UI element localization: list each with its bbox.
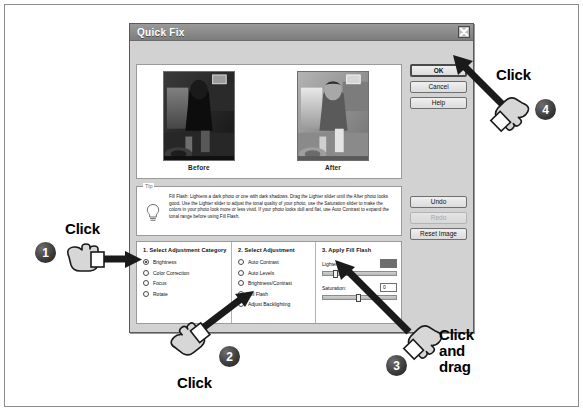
radio-label: Fill Flash [248,291,268,297]
annotation-label-4: Click [496,67,531,83]
radio-icon [238,301,244,307]
pointing-hand-icon [488,93,532,137]
lighter-slider-track[interactable] [322,271,397,276]
radio-label: Color Correction [153,270,189,276]
saturation-label: Saturation: [322,283,346,291]
section-apply-fill-flash: 3. Apply Fill Flash Lighter: Saturation: [316,242,401,323]
after-thumb-group: After [297,71,369,171]
radio-label: Auto Contrast [248,259,279,265]
saturation-slider-thumb[interactable] [356,294,361,302]
radio-rotate[interactable]: Rotate [143,291,227,297]
radio-icon [143,291,149,297]
lighter-value-input[interactable] [380,259,397,268]
close-icon[interactable] [457,26,470,39]
radio-icon [238,280,244,286]
after-label: After [297,164,369,171]
before-thumb-group: Before [163,71,235,171]
radio-icon [238,270,244,276]
annotation-badge-3: 3 [386,355,407,376]
lighter-slider-thumb[interactable] [333,270,338,278]
pointing-hand-icon [63,241,107,279]
tip-text: Fill Flash: Lightens a dark photo or one… [169,194,395,220]
annotation-label-3-line2: and [439,343,474,359]
radio-label: Auto Levels [248,270,274,276]
undo-button[interactable]: Undo [410,196,467,208]
section-select-category: 1. Select Adjustment Category Brightness… [137,242,232,323]
radio-icon [143,259,149,265]
before-image [163,71,235,161]
saturation-slider-track[interactable] [322,295,397,300]
dialog-body: Before [130,41,473,332]
radio-fill-flash[interactable]: Fill Flash [238,291,311,297]
radio-label: Brightness [153,259,177,265]
section3-title: 3. Apply Fill Flash [322,247,397,253]
annotation-label-2: Click [177,375,212,391]
annotation-badge-2: 2 [219,346,240,367]
radio-label: Brightness/Contrast [248,280,292,286]
radio-label: Focus [153,280,167,286]
radio-brightness[interactable]: Brightness [143,259,227,265]
saturation-value-input[interactable]: 0 [380,283,397,292]
redo-button: Redo [410,212,467,224]
tip-legend: Tip [143,183,154,189]
radio-icon [238,291,244,297]
quick-fix-dialog: Quick Fix [129,23,474,333]
before-label: Before [163,164,235,171]
section1-title: 1. Select Adjustment Category [143,247,227,253]
help-button[interactable]: Help [410,97,467,109]
radio-icon [238,259,244,265]
cancel-button[interactable]: Cancel [410,81,467,93]
radio-icon [143,270,149,276]
radio-label: Rotate [153,291,168,297]
saturation-slider-group: Saturation: 0 [322,283,397,300]
after-image [297,71,369,161]
lightbulb-icon [146,203,160,227]
radio-color-correction[interactable]: Color Correction [143,270,227,276]
lighter-label: Lighter: [322,259,339,267]
annotation-badge-1: 1 [35,242,56,263]
section2-title: 2. Select Adjustment [238,247,311,253]
page-frame: Quick Fix [4,4,579,407]
ok-button[interactable]: OK [410,64,467,77]
radio-focus[interactable]: Focus [143,280,227,286]
radio-icon [143,280,149,286]
radio-adjust-backlighting[interactable]: Adjust Backlighting [238,301,311,307]
lighter-slider-group: Lighter: [322,259,397,276]
dialog-action-buttons: OK Cancel Help [410,64,467,113]
radio-brightness-contrast[interactable]: Brightness/Contrast [238,280,311,286]
reset-image-button[interactable]: Reset Image [410,228,467,240]
radio-auto-levels[interactable]: Auto Levels [238,270,311,276]
tip-box: Tip Fill Flash: Lightens a dark photo or… [136,186,402,236]
annotation-label-1: Click [65,221,100,237]
annotation-badge-4: 4 [535,99,556,120]
annotation-label-3-line1: Click [439,327,474,343]
dialog-titlebar[interactable]: Quick Fix [130,24,473,41]
section-select-adjustment: 2. Select Adjustment Auto Contrast Auto … [232,242,316,323]
annotation-label-3: Click and drag [439,327,474,375]
annotation-label-3-line3: drag [439,359,474,375]
preview-panel: Before [136,64,402,179]
dialog-history-buttons: Undo Redo Reset Image [410,196,467,244]
radio-label: Adjust Backlighting [248,301,290,307]
adjustment-sections: 1. Select Adjustment Category Brightness… [136,241,402,324]
radio-auto-contrast[interactable]: Auto Contrast [238,259,311,265]
dialog-title: Quick Fix [137,27,185,38]
